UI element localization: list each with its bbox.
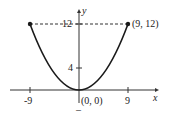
minus-mark: – [76,105,81,115]
point-label-9-12: (9, 12) [132,19,159,29]
origin-label: (0, 0) [81,96,103,106]
x-tick-label-neg9: -9 [24,96,32,106]
x-tick-label-9: 9 [125,96,130,106]
x-axis-label: x [153,93,157,103]
y-axis-label: y [82,6,86,16]
y-tick-label-4: 4 [68,63,73,73]
y-axis-arrow-icon [77,9,81,13]
endpoint-right [126,22,130,26]
y-tick-label-12: 12 [62,19,72,29]
endpoint-left [28,22,32,26]
